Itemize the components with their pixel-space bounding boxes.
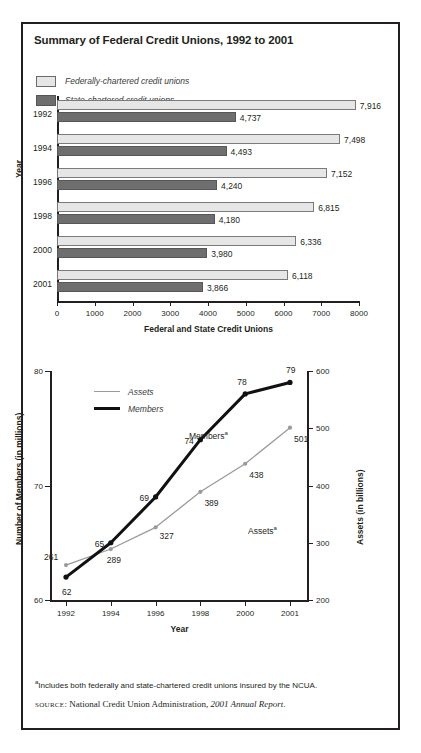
source-period: . bbox=[283, 699, 285, 709]
line-chart-plot-svg bbox=[50, 371, 309, 601]
members-point-label: 79 bbox=[286, 365, 295, 375]
source-prefix: SOURCE bbox=[35, 701, 64, 709]
x-tick bbox=[111, 601, 112, 606]
right-y-tick-label: 500 bbox=[316, 424, 329, 433]
x-tick-label: 1998 bbox=[191, 609, 209, 618]
assets-point-label: 389 bbox=[204, 498, 218, 508]
footnote: aIncludes both federally and state-chart… bbox=[35, 679, 317, 690]
assets-point-label: 501 bbox=[294, 434, 308, 444]
x-tick-label: 2001 bbox=[281, 609, 299, 618]
footnote-text: Includes both federally and state-charte… bbox=[38, 681, 317, 690]
x-tick bbox=[156, 601, 157, 606]
right-y-tick-label: 400 bbox=[316, 481, 329, 490]
source-body: : National Credit Union Administration, bbox=[64, 699, 210, 709]
right-y-tick-label: 600 bbox=[316, 367, 329, 376]
line-chart: Number of Members (in millions) Assets (… bbox=[0, 0, 379, 708]
x-tick-label: 1992 bbox=[57, 609, 75, 618]
x-tick bbox=[290, 601, 291, 606]
x-tick-label: 1994 bbox=[102, 609, 120, 618]
figure-page: Summary of Federal Credit Unions, 1992 t… bbox=[0, 0, 421, 753]
x-tick-label: 1996 bbox=[147, 609, 165, 618]
x-tick-label: 2000 bbox=[236, 609, 254, 618]
assets-point-label: 327 bbox=[160, 531, 174, 541]
right-y-tick-label: 300 bbox=[316, 538, 329, 547]
series-annotation-assets: Assetsa bbox=[248, 525, 277, 536]
series-annotation-members: Membersa bbox=[189, 430, 228, 441]
assets-point-label: 438 bbox=[249, 470, 263, 480]
line-chart-x-axis-label: Year bbox=[50, 624, 309, 634]
right-y-tick-label: 200 bbox=[316, 596, 329, 605]
assets-point-label: 289 bbox=[107, 555, 121, 565]
x-tick bbox=[66, 601, 67, 606]
line-chart-left-axis-label: Number of Members (in millions) bbox=[14, 413, 24, 545]
x-tick bbox=[245, 601, 246, 606]
x-tick bbox=[200, 601, 201, 606]
left-y-tick-label: 60 bbox=[21, 596, 43, 605]
assets-point-label: 261 bbox=[44, 552, 58, 562]
source-line: SOURCE: National Credit Union Administra… bbox=[35, 699, 286, 709]
members-point-label: 78 bbox=[237, 377, 246, 387]
line-chart-right-axis-label: Assets (in billions) bbox=[355, 469, 365, 545]
members-point-label: 69 bbox=[140, 493, 149, 503]
source-report-title: 2001 Annual Report bbox=[210, 699, 283, 709]
members-point-label: 62 bbox=[62, 587, 71, 597]
members-point-label: 65 bbox=[95, 539, 104, 549]
left-y-tick-label: 80 bbox=[21, 367, 43, 376]
left-y-tick-label: 70 bbox=[21, 481, 43, 490]
